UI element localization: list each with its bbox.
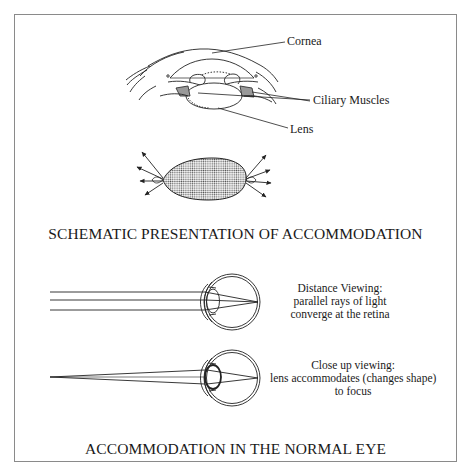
distance-caption-line-2: parallel rays of light <box>288 295 392 308</box>
distance-caption-line-3: converge at the retina <box>288 308 392 321</box>
distance-viewing-caption: Distance Viewing: parallel rays of light… <box>288 282 392 321</box>
close-up-eye-illustration <box>50 350 260 406</box>
normal-eye-title: ACCOMMODATION IN THE NORMAL EYE <box>14 440 457 458</box>
ciliary-muscles-label: Ciliary Muscles <box>313 94 389 107</box>
schematic-lens-illustration <box>137 152 271 200</box>
close-up-viewing-caption: Close up viewing: lens accommodates (cha… <box>270 359 436 398</box>
schematic-title: SCHEMATIC PRESENTATION OF ACCOMMODATION <box>14 225 457 243</box>
cornea-label: Cornea <box>287 35 322 48</box>
eye-cross-section-illustration <box>126 49 278 109</box>
close-up-caption-line-2: lens accommodates (changes shape) <box>270 372 436 385</box>
close-up-caption-line-3: to focus <box>270 385 436 398</box>
distance-eye-illustration <box>50 274 260 330</box>
close-up-caption-line-1: Close up viewing: <box>270 359 436 372</box>
lens-label: Lens <box>290 123 313 136</box>
distance-caption-line-1: Distance Viewing: <box>288 282 392 295</box>
